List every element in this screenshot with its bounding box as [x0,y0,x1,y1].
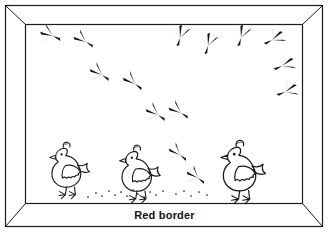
ground-seed [132,189,134,191]
ground-seed [190,195,192,197]
ground-seed [108,190,110,192]
frame-caption: Red border [134,209,195,221]
ground-seed [198,191,200,193]
ground-seed [206,194,208,196]
ground-seed [149,191,151,193]
ground-seed [120,191,122,193]
figure-svg: Red border [0,0,329,232]
ground-seed [87,196,89,198]
ground-seed [95,192,97,194]
ground-seed [126,195,128,197]
ground-seed [183,190,185,192]
ground-seed [155,194,157,196]
ground-seed [175,193,177,195]
ground-seed [101,195,103,197]
figure-canvas: Red border [0,0,329,232]
ground-seed [114,194,116,196]
picture-frame [6,6,323,227]
ground-seed [162,190,164,192]
ground-seed [137,193,139,195]
ground-seed [143,196,145,198]
